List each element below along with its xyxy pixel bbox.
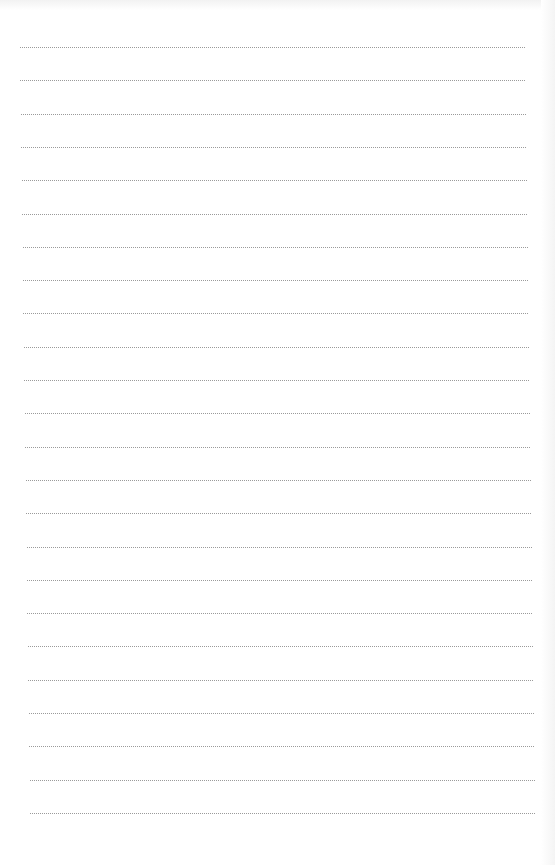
ruled-line bbox=[24, 347, 529, 348]
ruled-line bbox=[29, 746, 534, 747]
ruled-line bbox=[23, 313, 528, 314]
ruled-line bbox=[27, 547, 532, 548]
ruled-line bbox=[23, 247, 528, 248]
ruled-line bbox=[23, 280, 528, 281]
ruled-line bbox=[21, 147, 526, 148]
ruled-line bbox=[25, 447, 530, 448]
ruled-line bbox=[30, 813, 535, 814]
ruled-line bbox=[26, 513, 531, 514]
ruled-line bbox=[20, 80, 525, 81]
lined-page bbox=[0, 0, 555, 865]
ruled-line bbox=[30, 780, 535, 781]
ruled-line bbox=[22, 180, 527, 181]
ruled-line bbox=[27, 613, 532, 614]
ruled-line bbox=[26, 480, 531, 481]
ruled-line bbox=[28, 680, 533, 681]
ruled-line bbox=[21, 114, 526, 115]
ruled-line bbox=[22, 214, 527, 215]
ruled-line bbox=[25, 413, 530, 414]
ruled-line bbox=[20, 47, 525, 48]
ruled-line bbox=[29, 713, 534, 714]
ruled-line bbox=[24, 380, 529, 381]
ruled-line bbox=[27, 580, 532, 581]
ruled-line bbox=[28, 646, 533, 647]
